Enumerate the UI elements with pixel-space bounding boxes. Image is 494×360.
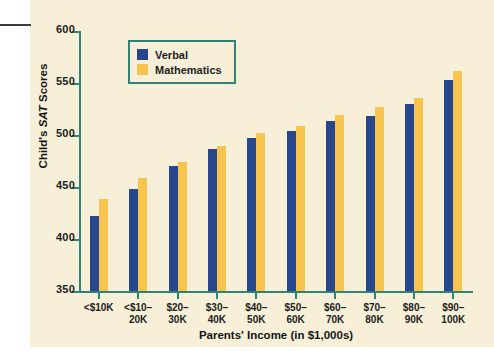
bar-mathematics (138, 178, 147, 291)
bar-mathematics (178, 162, 187, 291)
bar-group (324, 115, 346, 291)
top-left-rule (0, 24, 31, 26)
bar-group (245, 133, 267, 291)
x-tick-mark (295, 293, 297, 299)
legend-swatch-verbal (137, 49, 148, 60)
bar-group (206, 146, 228, 291)
chart-legend: Verbal Mathematics (128, 40, 236, 84)
x-axis-title: Parents' Income (in $1,000s) (79, 329, 473, 341)
legend-swatch-mathematics (137, 64, 148, 75)
y-axis-line (79, 31, 81, 293)
y-axis-title-italic: SAT (37, 105, 49, 127)
bar-mathematics (335, 115, 344, 291)
y-axis-title-before: Child's (37, 127, 49, 168)
y-tick-label: 350 (56, 283, 75, 295)
bar-mathematics (414, 98, 423, 291)
bar-verbal (169, 166, 178, 291)
x-tick-mark (177, 293, 179, 299)
bar-group (88, 199, 110, 291)
bar-mathematics (296, 126, 305, 291)
bar-group (364, 107, 386, 291)
bar-verbal (247, 138, 256, 291)
legend-item-mathematics: Mathematics (137, 62, 222, 77)
chart-screenshot: 350400450500550600 Child's SAT Scores Pa… (0, 0, 494, 360)
bar-group (127, 178, 149, 291)
x-tick-mark (137, 293, 139, 299)
bar-verbal (129, 189, 138, 291)
y-tick-label: 500 (56, 127, 75, 139)
y-axis-title: Child's SAT Scores (37, 46, 49, 186)
legend-label-verbal: Verbal (155, 49, 188, 61)
bar-mathematics (453, 71, 462, 291)
x-tick-mark (413, 293, 415, 299)
bar-verbal (208, 149, 217, 291)
x-tick-mark (334, 293, 336, 299)
bar-mathematics (375, 107, 384, 291)
x-tick-mark (98, 293, 100, 299)
y-axis-title-after: Scores (37, 64, 49, 106)
x-tick-mark (216, 293, 218, 299)
bar-verbal (287, 131, 296, 291)
x-tick-label: $90– 100K (428, 302, 478, 325)
bar-mathematics (256, 133, 265, 291)
x-tick-mark (452, 293, 454, 299)
bar-verbal (366, 116, 375, 291)
bar-mathematics (99, 199, 108, 291)
bar-group (167, 162, 189, 291)
bar-verbal (326, 121, 335, 291)
x-tick-mark (255, 293, 257, 299)
bar-mathematics (217, 146, 226, 291)
bar-group (442, 71, 464, 291)
bar-verbal (405, 104, 414, 291)
legend-label-mathematics: Mathematics (155, 64, 222, 76)
bar-verbal (444, 80, 453, 291)
y-tick-label: 550 (56, 75, 75, 87)
bar-group (403, 98, 425, 291)
legend-item-verbal: Verbal (137, 47, 222, 62)
x-tick-mark (374, 293, 376, 299)
y-tick-label: 400 (56, 231, 75, 243)
y-tick-label: 450 (56, 179, 75, 191)
bar-group (285, 126, 307, 291)
y-tick-label: 600 (56, 23, 75, 35)
bar-verbal (90, 216, 99, 291)
